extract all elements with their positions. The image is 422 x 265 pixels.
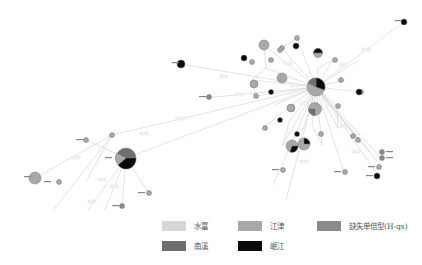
legend-label-nanxi: 南溪 — [194, 240, 208, 251]
legend-label-missing-haplotype: 缺失单倍型(H-qs) — [349, 220, 408, 231]
legend-swatch-minjiang — [238, 241, 262, 251]
main-cluster-hub-node — [307, 78, 325, 96]
legend-swatch-shuifu — [162, 221, 186, 231]
pie-node — [309, 103, 322, 116]
network-edges — [35, 22, 404, 210]
legend-item-jiangjin: 江津 — [238, 220, 284, 231]
node-labels — [24, 20, 402, 210]
network-nodes — [29, 19, 407, 210]
legend-item-missing-haplotype: 缺失单倍型(H-qs) — [317, 220, 408, 231]
legend-item-nanxi: 南溪 — [162, 240, 208, 251]
legend-label-minjiang: 岷江 — [270, 240, 284, 251]
legend-swatch-missing-haplotype — [317, 221, 341, 231]
edge-mutation-labels — [72, 48, 370, 203]
legend-item-shuifu: 水富 — [162, 220, 208, 231]
legend-label-jiangjin: 江津 — [270, 220, 284, 231]
legend-swatch-nanxi — [162, 241, 186, 251]
haplotype-network — [0, 0, 422, 210]
pie-node — [298, 138, 310, 150]
pie-node — [286, 140, 298, 152]
legend-swatch-jiangjin — [238, 221, 262, 231]
pie-node — [314, 49, 323, 58]
legend-item-minjiang: 岷江 — [238, 240, 284, 251]
secondary-hub-node — [115, 148, 136, 169]
legend-label-shuifu: 水富 — [194, 220, 208, 231]
